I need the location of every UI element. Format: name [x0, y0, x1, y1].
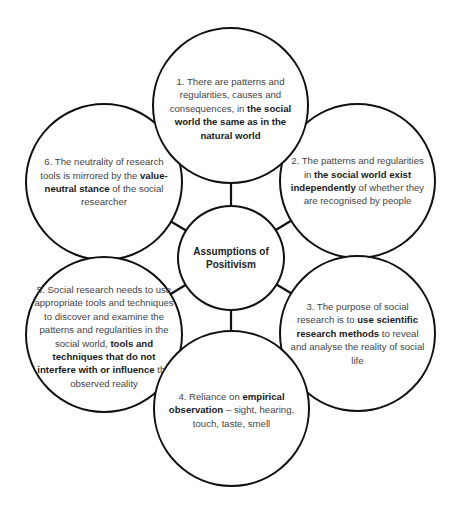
node-6-text: 6. The neutrality of research tools is m…	[36, 155, 172, 209]
node-4-text: 4. Reliance on empirical observation – s…	[162, 390, 302, 430]
node-1: 1. There are patterns and regularities, …	[152, 27, 309, 184]
center-hub-label: Assumptions of Positivism	[193, 245, 269, 272]
node-1-text: 1. There are patterns and regularities, …	[163, 75, 299, 142]
node-5-text: 5. Social research needs to use appropri…	[33, 283, 175, 390]
center-hub: Assumptions of Positivism	[177, 205, 285, 311]
node-3-text: 3. The purpose of social research is to …	[290, 300, 426, 367]
node-2-text: 2. The patterns and regularities in the …	[291, 154, 425, 208]
node-4: 4. Reliance on empirical observation – s…	[153, 330, 310, 487]
